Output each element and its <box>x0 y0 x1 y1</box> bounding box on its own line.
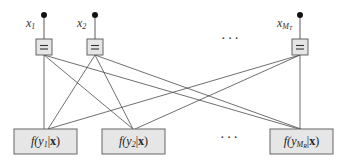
edge-x2-fMR <box>95 55 301 129</box>
edge-x2-f2 <box>95 55 133 129</box>
ellipsis-top: ··· <box>221 34 241 44</box>
variable-node-xMT <box>292 12 308 55</box>
label-x2-sub: 2 <box>82 22 86 31</box>
equality-node-x2 <box>87 39 103 55</box>
label-x1: x1 <box>26 17 35 33</box>
label-xMT: xMT <box>277 17 292 34</box>
factor-label-f1: f(y1|x) <box>14 134 77 152</box>
terminal-dot-icon <box>92 12 98 18</box>
label-xMT-sub-M: M <box>282 22 289 31</box>
close-paren: ) <box>144 134 148 148</box>
edge-xMT-f1 <box>48 55 300 129</box>
edges <box>44 55 301 129</box>
edge-x1-f2 <box>44 55 133 129</box>
label-x2: x2 <box>77 17 86 33</box>
terminal-dot-icon <box>41 12 47 18</box>
terminal-dot-icon <box>297 12 303 18</box>
label-x1-sub: 1 <box>31 22 35 31</box>
equality-node-x1 <box>36 39 52 55</box>
label-xMT-subsub: T <box>289 25 292 31</box>
variable-node-x2 <box>87 12 103 55</box>
variable-node-x1 <box>36 12 52 55</box>
edge-x1-fMR <box>44 55 299 129</box>
factor-label-fMR: f(yMR|x) <box>270 134 333 153</box>
equality-node-xMT <box>292 39 308 55</box>
label-xMT-sub: MT <box>282 22 292 31</box>
sub-MR: MR <box>296 140 306 149</box>
ellipsis-bottom: ··· <box>220 133 240 143</box>
close-paren: ) <box>56 134 60 148</box>
edge-xMT-f2 <box>135 55 300 129</box>
factor-label-f2: f(y2|x) <box>102 134 165 152</box>
close-paren: ) <box>315 134 319 148</box>
